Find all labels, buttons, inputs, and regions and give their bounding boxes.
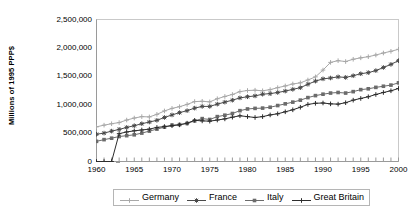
data-point-marker bbox=[132, 129, 137, 134]
data-point-marker bbox=[283, 89, 288, 94]
data-point-marker bbox=[351, 98, 356, 103]
legend-entry-france[interactable]: France bbox=[186, 192, 237, 203]
data-point-marker bbox=[306, 78, 311, 83]
data-point-marker bbox=[192, 99, 197, 104]
data-point-marker bbox=[343, 75, 348, 80]
y-tick-label: 2,000,000 bbox=[28, 44, 92, 52]
data-point-marker bbox=[268, 105, 272, 109]
data-point-marker bbox=[132, 133, 136, 137]
plot-area bbox=[96, 19, 399, 162]
data-point-marker bbox=[125, 134, 129, 138]
data-point-marker bbox=[132, 123, 137, 128]
data-point-marker bbox=[253, 88, 258, 93]
data-point-marker bbox=[230, 92, 235, 97]
data-point-marker bbox=[102, 138, 106, 142]
data-point-marker bbox=[328, 102, 333, 107]
legend-label: France bbox=[209, 193, 237, 202]
data-point-marker bbox=[215, 102, 220, 107]
data-point-marker bbox=[276, 104, 280, 108]
data-point-marker bbox=[275, 90, 280, 95]
data-point-marker bbox=[109, 121, 114, 126]
data-point-marker bbox=[215, 96, 220, 101]
y-tick-label: 2,500,000 bbox=[28, 16, 92, 24]
x-tick-label: 1960 bbox=[77, 166, 117, 174]
data-point-marker bbox=[336, 102, 341, 107]
chart-figure: Millions of 1995 PPP$ 2,500,0002,000,000… bbox=[0, 0, 418, 212]
data-point-marker bbox=[109, 129, 114, 134]
data-point-marker bbox=[170, 106, 175, 111]
data-point-marker bbox=[194, 198, 199, 203]
data-point-marker bbox=[336, 91, 340, 95]
data-point-marker bbox=[223, 94, 228, 99]
data-point-marker bbox=[381, 90, 386, 95]
data-point-marker bbox=[321, 92, 325, 96]
data-point-marker bbox=[155, 112, 160, 117]
data-point-marker bbox=[231, 112, 235, 116]
legend-entry-great-britain[interactable]: Great Britain bbox=[291, 192, 365, 203]
data-point-marker bbox=[147, 115, 152, 120]
data-point-marker bbox=[389, 88, 394, 93]
data-point-marker bbox=[207, 104, 212, 109]
x-tick-label: 1965 bbox=[114, 166, 154, 174]
data-point-marker bbox=[313, 101, 318, 106]
data-point-marker bbox=[162, 115, 167, 120]
data-point-marker bbox=[200, 99, 205, 104]
data-point-marker bbox=[268, 91, 273, 96]
data-point-marker bbox=[314, 94, 318, 98]
data-point-marker bbox=[230, 115, 235, 120]
data-point-marker bbox=[381, 51, 386, 56]
data-point-marker bbox=[132, 116, 137, 121]
data-point-marker bbox=[283, 102, 287, 106]
data-point-marker bbox=[291, 87, 296, 92]
data-point-marker bbox=[253, 115, 258, 120]
data-point-marker bbox=[343, 100, 348, 105]
data-point-marker bbox=[177, 104, 182, 109]
data-point-marker bbox=[223, 113, 227, 117]
data-point-marker bbox=[124, 118, 129, 123]
x-tick-label: 1985 bbox=[265, 166, 305, 174]
legend-label: Italy bbox=[267, 193, 284, 202]
data-point-marker bbox=[299, 198, 304, 203]
x-axis-tick-labels: 196019651970197519801985199019952000 bbox=[96, 166, 399, 180]
data-point-marker bbox=[260, 114, 265, 119]
y-tick-label: 0 bbox=[28, 158, 92, 166]
data-point-marker bbox=[102, 159, 107, 162]
data-point-marker bbox=[96, 140, 98, 144]
data-point-marker bbox=[127, 198, 132, 203]
data-point-marker bbox=[313, 79, 318, 84]
x-tick-label: 2000 bbox=[379, 166, 418, 174]
y-tick-label: 1,500,000 bbox=[28, 72, 92, 80]
data-point-marker bbox=[177, 110, 182, 115]
data-point-marker bbox=[147, 120, 152, 125]
data-point-marker bbox=[366, 54, 371, 59]
data-point-marker bbox=[102, 131, 107, 136]
series-canvas bbox=[96, 19, 399, 162]
x-tick-label: 1975 bbox=[190, 166, 230, 174]
data-point-marker bbox=[275, 111, 280, 116]
data-point-marker bbox=[298, 85, 303, 90]
data-point-marker bbox=[396, 58, 399, 63]
data-point-marker bbox=[374, 53, 379, 58]
data-point-marker bbox=[102, 123, 107, 128]
data-point-marker bbox=[230, 98, 235, 103]
data-point-marker bbox=[96, 159, 99, 162]
data-point-marker bbox=[124, 130, 129, 135]
legend-entry-italy[interactable]: Italy bbox=[244, 192, 284, 203]
data-point-marker bbox=[374, 86, 378, 90]
data-point-marker bbox=[343, 59, 348, 64]
legend-entry-germany[interactable]: Germany bbox=[119, 192, 179, 203]
data-point-marker bbox=[382, 84, 386, 88]
data-point-marker bbox=[291, 108, 296, 113]
data-point-marker bbox=[396, 47, 399, 52]
data-point-marker bbox=[260, 92, 265, 97]
data-point-marker bbox=[291, 82, 296, 87]
x-tick-label: 1980 bbox=[228, 166, 268, 174]
data-point-marker bbox=[344, 91, 348, 95]
data-point-marker bbox=[358, 96, 363, 101]
data-point-marker bbox=[358, 56, 363, 61]
data-point-marker bbox=[374, 92, 379, 97]
data-point-marker bbox=[389, 49, 394, 54]
data-point-marker bbox=[283, 84, 288, 89]
data-point-marker bbox=[283, 110, 288, 115]
data-point-marker bbox=[389, 83, 393, 87]
